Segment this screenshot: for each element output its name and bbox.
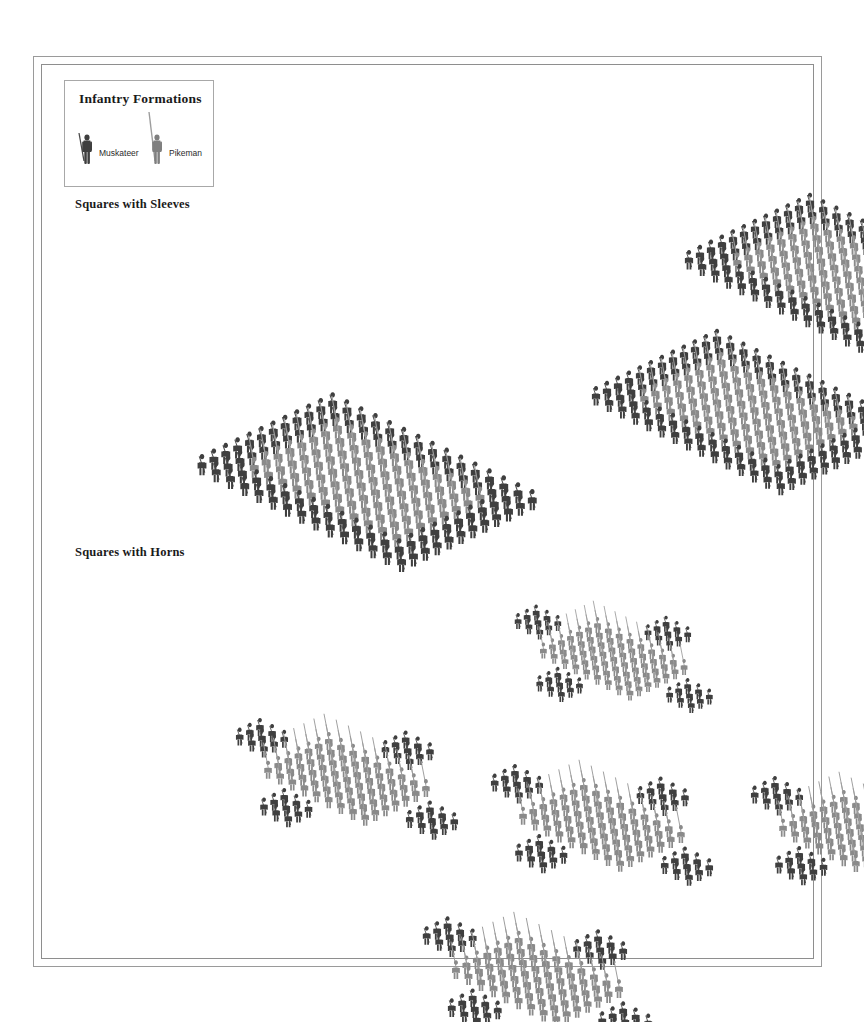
legend-title: Infantry Formations (79, 91, 202, 107)
formation-sleeve-2 (596, 285, 864, 505)
illustration-plate: Infantry Formations Mus (33, 56, 822, 967)
section-caption-horns: Squares with Horns (75, 545, 185, 560)
legend-entry-musketeer: Muskateer (75, 127, 139, 171)
section-caption-sleeves: Squares with Sleeves (75, 197, 190, 212)
musketeer-figure-icon (75, 127, 97, 171)
formation-horn-4 (694, 707, 864, 927)
formation-horn-5 (364, 845, 664, 1022)
formation-sleeve-3 (202, 345, 502, 565)
legend-label-pikeman: Pikeman (169, 148, 202, 171)
legend-entry-pikeman: Pikeman (143, 111, 202, 171)
legend-label-musketeer: Muskateer (99, 148, 139, 171)
legend-box: Infantry Formations Mus (64, 80, 214, 187)
pikeman-figure-icon (143, 111, 167, 171)
